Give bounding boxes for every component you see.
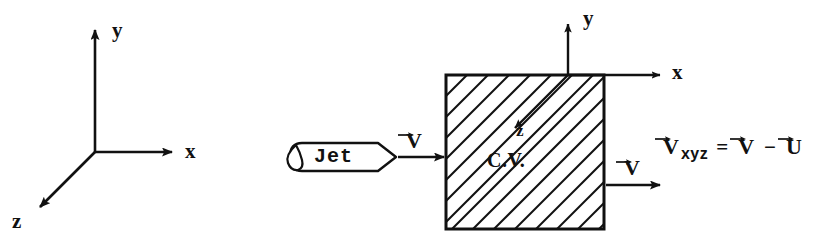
vector-arrow-icon bbox=[616, 157, 632, 166]
jet-label: Jet bbox=[314, 147, 353, 167]
equation-lhs-symbol: V bbox=[663, 134, 679, 160]
equation-rhs-second-symbol: U bbox=[786, 134, 802, 160]
vector-arrow-icon bbox=[655, 134, 671, 143]
figure-vector-graphics bbox=[0, 0, 832, 249]
vector-arrow-icon bbox=[778, 134, 794, 143]
control-volume-label: C.V. bbox=[487, 150, 525, 170]
global-axis-label-z: z bbox=[12, 211, 21, 232]
outlet-velocity-label: V bbox=[624, 157, 642, 179]
relative-velocity-equation: V xyz = V − U bbox=[660, 134, 805, 160]
equation-lhs-subscript: xyz bbox=[681, 145, 708, 163]
equation-equals-sign: = bbox=[716, 135, 728, 160]
global-axes-lines bbox=[40, 30, 172, 207]
equation-rhs-first-symbol: V bbox=[738, 134, 754, 160]
cv-axis-label-y: y bbox=[583, 8, 594, 29]
equation-minus-operator: − bbox=[764, 135, 776, 160]
global-axis-label-y: y bbox=[112, 20, 123, 41]
vector-arrow-icon bbox=[730, 134, 746, 143]
inlet-velocity-label: V bbox=[406, 130, 424, 152]
cv-axis-label-z: z bbox=[516, 122, 524, 139]
fluid-mechanics-control-volume-figure: x y z Jet V C.V. z y x V V xyz = bbox=[0, 0, 832, 249]
global-axis-label-x: x bbox=[185, 141, 196, 162]
cv-axis-label-x: x bbox=[672, 62, 683, 83]
vector-arrow-icon bbox=[398, 130, 414, 139]
